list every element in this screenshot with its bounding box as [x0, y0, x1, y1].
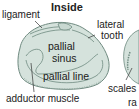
outer-shell-partial	[124, 30, 139, 84]
label-adductor-muscle: adductor muscle	[6, 93, 79, 104]
label-ligament: ligament	[2, 9, 40, 20]
label-lateral-tooth-line2: tooth	[101, 30, 123, 41]
label-pallial-sinus-line1: pallial	[48, 40, 75, 52]
clam-diagram: Inside ligament lateral tooth pallial si…	[0, 0, 139, 109]
diagram-title: Inside	[51, 1, 83, 13]
label-pallial-sinus-line2: sinus	[52, 52, 77, 64]
label-partial-cut-off: ra	[128, 97, 137, 108]
label-scales: scales	[108, 83, 136, 94]
label-lateral-tooth-line1: lateral	[97, 19, 124, 30]
label-pallial-line: pallial line	[43, 70, 89, 82]
